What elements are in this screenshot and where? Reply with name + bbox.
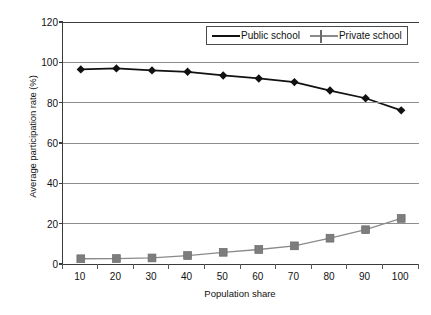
series-line-private-school bbox=[81, 218, 401, 258]
data-point-marker bbox=[112, 64, 120, 72]
data-point-marker bbox=[290, 78, 298, 86]
data-point-marker bbox=[326, 86, 334, 94]
square-marker-icon bbox=[320, 30, 322, 43]
chart-figure: Average participation rate (%) 020406080… bbox=[0, 0, 431, 315]
x-tick-mark bbox=[346, 264, 347, 269]
y-tick-mark bbox=[59, 21, 63, 22]
gridline bbox=[63, 143, 419, 144]
y-tick-mark bbox=[59, 223, 63, 224]
data-point-marker bbox=[183, 68, 191, 76]
legend-item-private-school: Private school bbox=[310, 30, 402, 41]
x-tick-mark bbox=[204, 264, 205, 269]
y-tick-label: 120 bbox=[32, 17, 58, 28]
x-tick-mark bbox=[240, 264, 241, 269]
data-point-marker bbox=[148, 66, 156, 74]
legend-label-public-school: Public school bbox=[241, 30, 300, 41]
series-line-public-school bbox=[81, 68, 401, 110]
x-axis-title: Population share bbox=[62, 288, 418, 299]
y-tick-mark bbox=[59, 142, 63, 143]
data-point-marker bbox=[397, 215, 405, 223]
x-tick-label: 70 bbox=[273, 271, 313, 282]
x-tick-mark bbox=[97, 264, 98, 269]
plot-area bbox=[62, 22, 418, 264]
data-point-marker bbox=[184, 252, 192, 260]
x-tick-label: 30 bbox=[131, 271, 171, 282]
data-point-marker bbox=[326, 234, 334, 242]
x-tick-mark bbox=[133, 264, 134, 269]
x-tick-label: 100 bbox=[380, 271, 420, 282]
y-tick-label: 60 bbox=[32, 138, 58, 149]
gridline bbox=[63, 183, 419, 184]
y-tick-label: 100 bbox=[32, 57, 58, 68]
legend-swatch-private-school bbox=[310, 31, 338, 41]
data-point-marker bbox=[361, 94, 369, 102]
x-tick-mark bbox=[311, 264, 312, 269]
gridline bbox=[63, 102, 419, 103]
data-point-marker bbox=[291, 242, 299, 250]
gridline bbox=[63, 22, 419, 23]
legend-item-public-school: Public school bbox=[212, 30, 300, 41]
x-tick-mark bbox=[62, 264, 63, 269]
x-tick-mark bbox=[418, 264, 419, 269]
y-tick-label: 40 bbox=[32, 178, 58, 189]
x-tick-label: 80 bbox=[309, 271, 349, 282]
data-point-marker bbox=[219, 71, 227, 79]
y-tick-mark bbox=[59, 62, 63, 63]
x-tick-mark bbox=[168, 264, 169, 269]
data-point-marker bbox=[255, 246, 263, 254]
data-point-marker bbox=[77, 65, 85, 73]
data-point-marker bbox=[113, 255, 121, 263]
x-tick-mark bbox=[275, 264, 276, 269]
y-tick-mark bbox=[59, 183, 63, 184]
x-tick-label: 50 bbox=[202, 271, 242, 282]
data-point-marker bbox=[255, 74, 263, 82]
x-tick-label: 40 bbox=[167, 271, 207, 282]
data-point-marker bbox=[148, 254, 156, 262]
legend-label-private-school: Private school bbox=[339, 30, 402, 41]
y-tick-label: 0 bbox=[32, 259, 58, 270]
data-point-marker bbox=[77, 255, 85, 263]
gridline bbox=[63, 62, 419, 63]
y-tick-label: 20 bbox=[32, 218, 58, 229]
chart-legend: Public school Private school bbox=[206, 26, 408, 45]
x-tick-label: 10 bbox=[60, 271, 100, 282]
data-point-marker bbox=[219, 248, 227, 256]
y-tick-mark bbox=[59, 102, 63, 103]
x-tick-label: 20 bbox=[95, 271, 135, 282]
x-tick-label: 90 bbox=[345, 271, 385, 282]
gridline bbox=[63, 223, 419, 224]
legend-swatch-public-school bbox=[212, 31, 240, 41]
data-point-marker bbox=[397, 106, 405, 114]
y-axis-tick-labels: 020406080100120 bbox=[30, 0, 58, 315]
x-tick-mark bbox=[382, 264, 383, 269]
x-tick-label: 60 bbox=[238, 271, 278, 282]
y-tick-label: 80 bbox=[32, 97, 58, 108]
data-point-marker bbox=[362, 226, 370, 234]
